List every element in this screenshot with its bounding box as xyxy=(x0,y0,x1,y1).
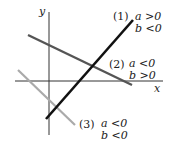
x-axis-label: x xyxy=(154,82,161,95)
y-axis-label: y xyxy=(38,5,46,18)
line-2-tag: (2) xyxy=(109,58,125,71)
line-1-cond-b: b <0 xyxy=(135,22,162,35)
line-3-cond-b: b <0 xyxy=(101,129,128,142)
line-sign-diagram: y x (1) a >0 b <0 (2) a <0 b >0 (3) a <0… xyxy=(0,0,170,149)
line-3-tag: (3) xyxy=(79,118,95,131)
line-1-tag: (1) xyxy=(113,10,129,23)
line-2-cond-b: b >0 xyxy=(129,69,156,82)
